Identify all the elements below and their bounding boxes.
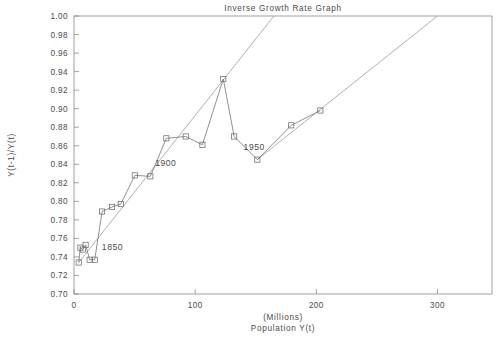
era-annotation: 1900: [155, 158, 176, 168]
y-axis-ticks: 0.700.720.740.760.780.800.820.840.860.88…: [50, 12, 79, 299]
y-tick-label: 0.76: [50, 234, 68, 243]
x-axis-ticks: 0100200300: [72, 289, 445, 310]
era-annotation: 1850: [102, 242, 123, 252]
series-polyline: [79, 79, 321, 262]
y-tick-label: 0.92: [50, 86, 68, 95]
y-tick-label: 0.98: [50, 31, 68, 40]
y-tick-label: 0.72: [50, 271, 68, 280]
inverse-growth-rate-chart: Inverse Growth Rate Graph 0.700.720.740.…: [0, 0, 500, 338]
x-tick-label: 200: [309, 301, 324, 310]
y-tick-label: 0.90: [50, 105, 68, 114]
y-tick-label: 0.78: [50, 216, 68, 225]
era-annotation: 1950: [244, 142, 265, 152]
y-tick-label: 0.82: [50, 179, 68, 188]
y-axis-title: Y(t-1)/Y(t): [7, 133, 16, 177]
y-tick-label: 0.80: [50, 197, 68, 206]
era-annotations-group: 185019001950: [102, 142, 265, 251]
data-series-group: [79, 79, 321, 262]
trend-line: [257, 16, 437, 160]
y-tick-label: 0.84: [50, 160, 68, 169]
data-markers-group: [76, 76, 323, 265]
x-tick-label: 100: [188, 301, 203, 310]
x-axis-units-label: (Millions): [263, 313, 303, 322]
x-axis-title: Population Y(t): [251, 324, 316, 333]
y-tick-label: 0.96: [50, 49, 68, 58]
y-tick-label: 0.88: [50, 123, 68, 132]
x-tick-label: 300: [430, 301, 445, 310]
trend-lines-group: [79, 16, 438, 262]
plot-frame: [74, 16, 492, 294]
x-tick-label: 0: [72, 301, 77, 310]
y-tick-label: 1.00: [50, 12, 68, 21]
y-tick-label: 0.70: [50, 290, 68, 299]
chart-title: Inverse Growth Rate Graph: [224, 4, 342, 13]
y-tick-label: 0.74: [50, 253, 68, 262]
y-tick-label: 0.86: [50, 142, 68, 151]
chart-container: Inverse Growth Rate Graph 0.700.720.740.…: [0, 0, 500, 338]
trend-line: [79, 16, 274, 262]
y-tick-label: 0.94: [50, 68, 68, 77]
